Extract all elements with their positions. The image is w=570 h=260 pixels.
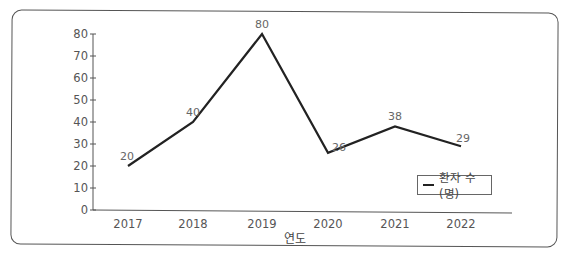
line-chart: 0102030405060708020172018201920202021202… [0, 0, 570, 260]
data-point-label: 40 [186, 106, 200, 119]
data-point-label: 20 [120, 150, 134, 163]
x-tick-label: 2022 [446, 217, 475, 231]
x-tick-label: 2018 [178, 217, 207, 231]
y-tick-label: 60 [73, 71, 88, 85]
y-tick-label: 30 [73, 137, 88, 151]
y-tick-label: 20 [73, 159, 88, 173]
x-tick-label: 2021 [380, 217, 409, 231]
y-tick-label: 40 [73, 115, 88, 129]
legend-line-icon [423, 184, 434, 187]
data-point-label: 26 [332, 141, 346, 154]
data-point-label: 38 [388, 110, 402, 123]
series-line [128, 34, 461, 166]
x-axis-label: 연도 [284, 229, 306, 246]
x-tick-label: 2017 [113, 217, 142, 231]
data-point-label: 29 [456, 132, 470, 145]
legend: 환자 수(명) [417, 175, 492, 195]
x-axis [93, 210, 512, 213]
x-tick-label: 2020 [313, 217, 342, 231]
x-tick-label: 2019 [247, 217, 276, 231]
y-tick-label: 70 [73, 49, 88, 63]
y-tick-label: 0 [81, 203, 88, 217]
y-tick-label: 80 [73, 27, 88, 41]
data-point-label: 80 [255, 18, 269, 31]
y-tick-label: 10 [73, 181, 88, 195]
y-tick-label: 50 [73, 93, 88, 107]
legend-label: 환자 수(명) [439, 169, 491, 201]
